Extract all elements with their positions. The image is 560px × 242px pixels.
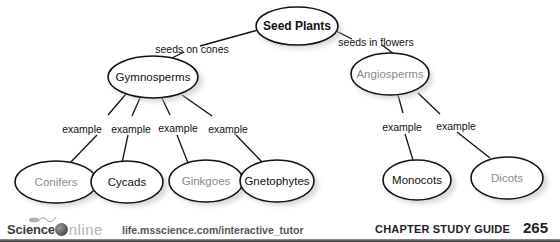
node-label: Gymnosperms [116, 71, 191, 83]
node-label: Cycads [108, 176, 147, 188]
link-label-example: example [111, 123, 151, 135]
node-label: Ginkgoes [182, 175, 231, 187]
node-label: Conifers [35, 176, 78, 188]
node-cycads: Cycads [91, 161, 163, 203]
node-angiosperms: Angiosperms [351, 53, 429, 95]
link-label-example: example [158, 122, 198, 134]
node-label: Seed Plants [263, 19, 331, 33]
page-number: 265 [523, 219, 548, 236]
globe-icon [55, 223, 68, 236]
link-label-seeds-on-cones: seeds on cones [155, 43, 229, 55]
brand-online-text: nline [69, 223, 103, 237]
node-label: Dicots [491, 172, 523, 184]
node-gnetophytes: Gnetophytes [240, 160, 314, 202]
node-label: Gnetophytes [244, 175, 309, 187]
node-gymnosperms: Gymnosperms [108, 56, 198, 98]
link-label-example: example [208, 123, 248, 135]
node-label: Angiosperms [356, 68, 423, 80]
node-ginkgoes: Ginkgoes [169, 160, 243, 202]
link-label-seeds-in-flowers: seeds in flowers [338, 36, 413, 48]
concept-map: Seed Plants Gymnosperms Angiosperms Coni… [0, 0, 560, 212]
link-label-example: example [62, 123, 102, 135]
brand-science-text: Science [7, 222, 55, 237]
node-label: Monocots [392, 174, 442, 186]
link-label-example: example [382, 121, 422, 133]
node-seed-plants: Seed Plants [256, 7, 338, 45]
node-monocots: Monocots [383, 160, 451, 200]
page-footer: Science nline life.msscience.com/interac… [0, 214, 560, 242]
node-conifers: Conifers [15, 161, 97, 203]
science-online-logo: Science nline [7, 222, 103, 237]
chapter-study-guide-label: CHAPTER STUDY GUIDE [375, 223, 510, 235]
interactive-tutor-link[interactable]: life.msscience.com/interactive_tutor [122, 224, 304, 236]
node-dicots: Dicots [471, 157, 543, 199]
link-label-example: example [436, 120, 476, 132]
swoosh-icon [29, 215, 57, 223]
